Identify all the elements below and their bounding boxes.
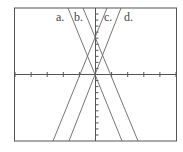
label-c: c. <box>104 11 112 23</box>
graph-window <box>0 0 183 152</box>
label-d: d. <box>124 11 133 23</box>
label-b: b. <box>74 11 83 23</box>
label-a: a. <box>56 11 64 23</box>
